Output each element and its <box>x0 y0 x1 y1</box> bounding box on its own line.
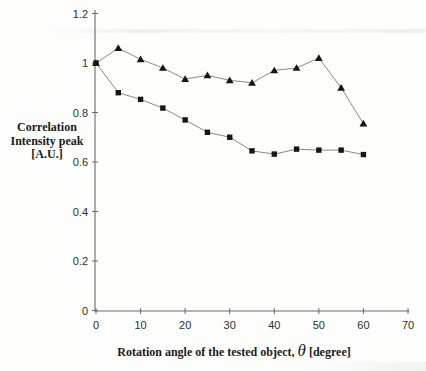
square-marker <box>138 97 143 102</box>
triangle-marker <box>159 64 167 71</box>
y-axis-title-line2: Intensity peak <box>4 135 90 149</box>
x-tick-label: 30 <box>224 319 236 331</box>
square-marker <box>316 147 321 152</box>
y-tick-label: 0.4 <box>73 206 88 218</box>
x-tick-label: 50 <box>313 319 325 331</box>
square-marker <box>338 147 343 152</box>
y-tick-label: 1 <box>82 57 88 69</box>
triangle-marker <box>360 120 368 127</box>
y-tick-label: 0.2 <box>73 255 88 267</box>
x-axis-title-text: Rotation angle of the tested object, <box>117 345 294 359</box>
y-tick-label: 1.2 <box>73 8 88 20</box>
triangle-marker <box>337 84 345 91</box>
theta-symbol: θ <box>298 341 306 360</box>
x-tick-label: 0 <box>93 319 99 331</box>
y-tick-label: 0 <box>82 305 88 317</box>
y-axis-title: Correlation Intensity peak [A.U.] <box>4 121 90 162</box>
square-marker <box>205 130 210 135</box>
square-marker <box>160 105 165 110</box>
triangle-marker <box>114 44 122 51</box>
y-axis-title-line3: [A.U.] <box>4 148 90 162</box>
triangle-marker <box>137 55 145 62</box>
square-marker <box>272 151 277 156</box>
x-tick-label: 10 <box>134 319 146 331</box>
x-tick-label: 20 <box>179 319 191 331</box>
square-marker <box>182 117 187 122</box>
square-marker <box>93 60 98 65</box>
plot-canvas: 01020304050607000.20.40.60.811.2 <box>0 0 426 371</box>
x-tick-label: 40 <box>268 319 280 331</box>
y-axis-title-line1: Correlation <box>4 121 90 135</box>
triangle-marker <box>204 72 212 79</box>
square-marker <box>116 90 121 95</box>
y-tick-label: 0.8 <box>73 107 88 119</box>
triangle-marker <box>315 54 323 61</box>
x-axis-title-unit: [degree] <box>309 345 351 359</box>
x-tick-label: 60 <box>357 319 369 331</box>
square-marker <box>249 148 254 153</box>
square-marker <box>361 152 366 157</box>
x-axis-title: Rotation angle of the tested object,θ[de… <box>58 341 410 361</box>
square-marker <box>294 146 299 151</box>
x-tick-label: 70 <box>402 319 414 331</box>
triangle-series-line <box>96 48 363 123</box>
triangle-marker <box>293 64 301 71</box>
square-marker <box>227 135 232 140</box>
chart-figure: 01020304050607000.20.40.60.811.2 Correla… <box>0 0 426 371</box>
